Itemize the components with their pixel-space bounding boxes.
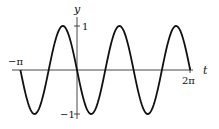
sine-chart: y t 1 −1 −π 2π bbox=[0, 0, 219, 129]
y-tick-label-neg1: −1 bbox=[60, 109, 75, 120]
y-axis-label: y bbox=[73, 3, 81, 16]
x-tick-label-neg-pi: −π bbox=[8, 56, 23, 67]
x-tick-label-2pi: 2π bbox=[182, 75, 195, 86]
x-axis-label: t bbox=[203, 64, 208, 77]
y-tick-label-1: 1 bbox=[82, 21, 88, 32]
